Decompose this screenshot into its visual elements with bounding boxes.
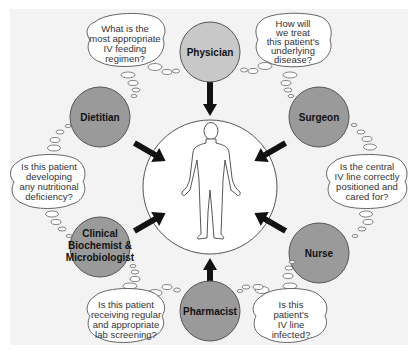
question-dietitian: Is this patient developing any nutrition… <box>19 161 78 202</box>
care-team-diagram: Physician Surgeon Nurse Pharmacist Clini… <box>0 0 419 356</box>
svg-text:regimen?: regimen? <box>105 53 145 64</box>
role-label: Clinical <box>82 228 118 239</box>
question-biochemist: Is this patient receiving regular and ap… <box>91 299 161 340</box>
role-nurse: Nurse <box>289 223 349 283</box>
role-physician: Physician <box>180 22 240 82</box>
role-label: Nurse <box>305 248 334 259</box>
role-pharmacist: Pharmacist <box>180 281 240 341</box>
svg-text:lab screening?: lab screening? <box>95 329 157 340</box>
role-label: Microbiologist <box>66 252 135 263</box>
arrow-physician-icon <box>203 80 217 116</box>
role-clinical-biochemist-microbiologist: Clinical Biochemist & Microbiologist <box>66 217 135 277</box>
svg-text:disease?: disease? <box>274 54 312 65</box>
role-label: Pharmacist <box>183 306 238 317</box>
svg-text:deficiency?: deficiency? <box>25 191 73 202</box>
role-label: Dietitian <box>80 112 119 123</box>
role-label: Biochemist & <box>68 240 132 251</box>
role-label: Physician <box>187 47 234 58</box>
role-dietitian: Dietitian <box>70 87 130 147</box>
svg-text:infected?: infected? <box>272 329 311 340</box>
svg-text:cared for?: cared for? <box>346 191 389 202</box>
role-label: Surgeon <box>299 112 340 123</box>
role-surgeon: Surgeon <box>289 87 349 147</box>
